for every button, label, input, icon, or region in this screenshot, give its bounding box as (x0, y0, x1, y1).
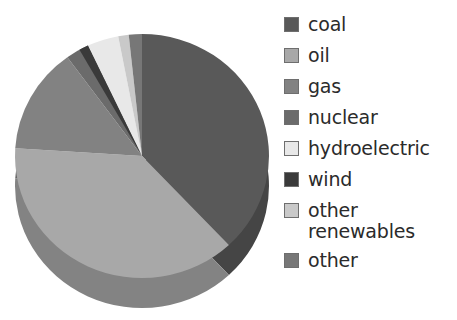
legend-item-label: coal (308, 14, 346, 35)
pie-chart-svg (8, 8, 278, 312)
legend-item[interactable]: other (284, 250, 457, 271)
legend-item[interactable]: wind (284, 169, 457, 190)
pie-slices-layer (15, 34, 269, 278)
chart-legend: coaloilgasnuclearhydroelectricwindother … (284, 14, 457, 314)
legend-item[interactable]: gas (284, 76, 457, 97)
legend-item[interactable]: coal (284, 14, 457, 35)
legend-swatch-icon (284, 253, 299, 268)
legend-item[interactable]: nuclear (284, 107, 457, 128)
legend-item-label: other renewables (308, 200, 415, 242)
legend-item-label: other (308, 250, 358, 271)
pie-chart-plot-area (8, 8, 278, 312)
legend-swatch-icon (284, 48, 299, 63)
legend-item-label: hydroelectric (308, 138, 430, 159)
pie-chart-figure: coaloilgasnuclearhydroelectricwindother … (0, 0, 457, 320)
legend-swatch-icon (284, 203, 299, 218)
legend-swatch-icon (284, 17, 299, 32)
legend-swatch-icon (284, 79, 299, 94)
legend-item-label: nuclear (308, 107, 378, 128)
legend-item-label: gas (308, 76, 341, 97)
legend-item-label: wind (308, 169, 352, 190)
legend-swatch-icon (284, 172, 299, 187)
legend-item[interactable]: hydroelectric (284, 138, 457, 159)
legend-item[interactable]: oil (284, 45, 457, 66)
legend-item[interactable]: other renewables (284, 200, 457, 242)
legend-swatch-icon (284, 141, 299, 156)
legend-item-label: oil (308, 45, 330, 66)
legend-swatch-icon (284, 110, 299, 125)
